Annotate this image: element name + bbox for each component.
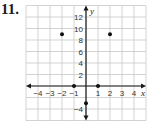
data-point: [72, 84, 76, 88]
y-axis-down-arrow-icon: [84, 116, 89, 121]
data-point: [96, 84, 100, 88]
x-axis-left-arrow-icon: [26, 84, 31, 89]
x-tick-label: −2: [57, 89, 67, 98]
y-tick-label: 4: [79, 59, 84, 68]
x-axis-label: x: [140, 88, 145, 98]
y-tick-label: 6: [79, 48, 84, 57]
data-point: [84, 101, 88, 105]
x-tick-label: −1: [69, 89, 79, 98]
data-point: [60, 32, 64, 36]
x-tick-label: 3: [120, 89, 125, 98]
y-tick-label: 10: [74, 25, 83, 34]
data-point: [108, 32, 112, 36]
x-tick-label: −4: [33, 89, 43, 98]
x-tick-label: −3: [45, 89, 55, 98]
coordinate-plane: xy−4−3−2−1123412108642−4: [0, 0, 149, 124]
y-tick-label: 2: [79, 71, 84, 80]
y-axis-up-arrow-icon: [84, 6, 89, 11]
x-tick-label: 1: [96, 89, 101, 98]
y-tick-label: −4: [74, 105, 84, 114]
y-tick-label: 12: [74, 13, 83, 22]
y-tick-label: 8: [79, 36, 84, 45]
x-tick-label: 2: [108, 89, 113, 98]
y-axis-label: y: [89, 6, 94, 16]
x-tick-label: 4: [132, 89, 137, 98]
